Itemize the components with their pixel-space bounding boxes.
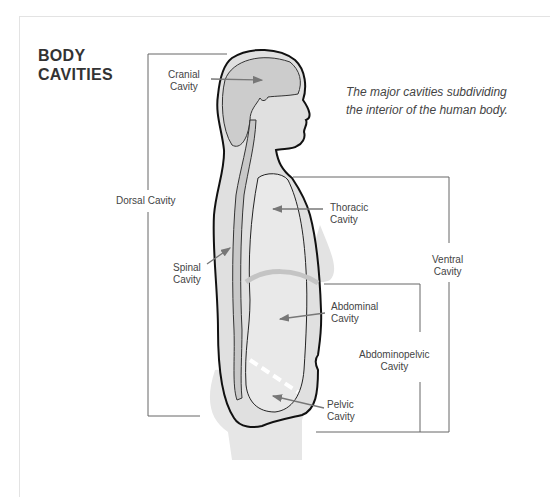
label-line: Cavity bbox=[173, 274, 201, 286]
label-cranial-cavity: Cranial Cavity bbox=[168, 69, 200, 93]
label-line: Thoracic bbox=[330, 202, 368, 214]
label-line: Cranial bbox=[168, 69, 200, 81]
label-line: Abdominopelvic bbox=[359, 349, 430, 361]
label-line: Cavity bbox=[330, 214, 368, 226]
label-line: Cavity bbox=[168, 81, 200, 93]
label-dorsal-cavity: Dorsal Cavity bbox=[116, 195, 175, 207]
label-line: Cavity bbox=[359, 361, 430, 373]
label-line: Cavity bbox=[327, 411, 355, 423]
label-line: Ventral bbox=[432, 254, 463, 266]
label-pelvic-cavity: Pelvic Cavity bbox=[327, 399, 355, 423]
label-line: Pelvic bbox=[327, 399, 355, 411]
label-ventral-cavity: Ventral Cavity bbox=[432, 254, 463, 278]
label-abdominopelvic-cavity: Abdominopelvic Cavity bbox=[359, 349, 430, 373]
label-thoracic-cavity: Thoracic Cavity bbox=[330, 202, 368, 226]
label-line: Cavity bbox=[432, 266, 463, 278]
label-line: Spinal bbox=[173, 262, 201, 274]
label-abdominal-cavity: Abdominal Cavity bbox=[331, 301, 378, 325]
label-spinal-cavity: Spinal Cavity bbox=[173, 262, 201, 286]
label-line: Abdominal bbox=[331, 301, 378, 313]
label-line: Cavity bbox=[331, 313, 378, 325]
